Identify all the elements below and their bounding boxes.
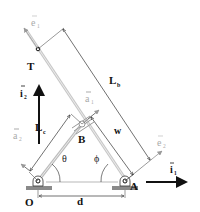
svg-text:b: b bbox=[117, 82, 121, 88]
e2-vector-arrow bbox=[152, 151, 162, 159]
svg-text:a: a bbox=[13, 130, 18, 141]
label-lc: L c bbox=[35, 121, 46, 135]
phi-arc bbox=[101, 164, 108, 182]
svg-text:i: i bbox=[170, 164, 173, 175]
svg-text:2: 2 bbox=[24, 94, 27, 100]
svg-text:2: 2 bbox=[163, 143, 166, 149]
svg-text:L: L bbox=[109, 74, 116, 86]
ground-support-o bbox=[26, 176, 52, 190]
e1-vector-arrow bbox=[24, 28, 38, 49]
svg-text:c: c bbox=[43, 129, 46, 135]
svg-text:1: 1 bbox=[91, 99, 94, 105]
label-point-a: A bbox=[130, 180, 138, 192]
label-i1: i 1 bbox=[170, 163, 177, 176]
a1-vector-arrow bbox=[88, 110, 99, 119]
mechanism-diagram: T B O A L b L c w d θ ϕ i 2 i 1 a 1 a 2 … bbox=[0, 0, 200, 212]
label-i2: i 2 bbox=[20, 86, 27, 100]
label-e2: e 2 bbox=[157, 136, 166, 149]
sliding-rod bbox=[26, 30, 126, 180]
label-e1: e 1 bbox=[31, 16, 40, 29]
label-point-t: T bbox=[27, 60, 35, 72]
svg-text:i: i bbox=[20, 88, 23, 99]
svg-text:2: 2 bbox=[19, 136, 22, 142]
svg-text:e: e bbox=[31, 17, 36, 28]
label-lb: L b bbox=[109, 74, 121, 88]
label-theta: θ bbox=[62, 153, 67, 164]
label-point-o: O bbox=[25, 196, 34, 208]
label-a2: a 2 bbox=[13, 129, 22, 142]
svg-text:1: 1 bbox=[37, 23, 40, 29]
theta-arc bbox=[52, 164, 60, 182]
label-phi: ϕ bbox=[94, 153, 99, 164]
label-w: w bbox=[114, 125, 122, 136]
svg-text:a: a bbox=[85, 93, 90, 104]
svg-text:1: 1 bbox=[174, 170, 177, 176]
svg-text:e: e bbox=[157, 137, 162, 148]
label-point-b: B bbox=[78, 133, 86, 145]
label-a1: a 1 bbox=[85, 92, 94, 105]
a2-vector-arrow bbox=[21, 164, 30, 171]
label-d: d bbox=[77, 195, 83, 207]
svg-text:L: L bbox=[35, 121, 42, 133]
